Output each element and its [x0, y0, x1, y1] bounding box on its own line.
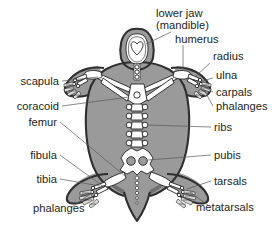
rib-node-r1	[142, 104, 148, 110]
rib-node-r4	[142, 131, 148, 137]
label-phalanges-hind: phalanges	[33, 202, 85, 214]
label-ribs: ribs	[214, 121, 232, 133]
rib-node-l3	[126, 122, 132, 128]
cervical-vertebra-1	[135, 65, 139, 69]
label-tarsals: tarsals	[214, 175, 247, 187]
label-radius: radius	[213, 50, 244, 62]
rib-node-l5	[126, 140, 132, 146]
label-coracoid: coracoid	[17, 100, 59, 112]
label-mandible: (mandible)	[156, 19, 209, 31]
rib-node-r2	[142, 113, 148, 119]
pelvic-girdle	[120, 148, 154, 175]
leader-radius	[196, 63, 210, 76]
turtle-skeleton-diagram: lower jaw (mandible) humerus radius ulna…	[0, 0, 273, 236]
label-fibula: fibula	[30, 149, 58, 161]
pubis-foramen-left	[127, 157, 136, 166]
cervical-vertebra-2	[135, 70, 139, 74]
vertebra-1	[131, 104, 143, 111]
label-lower-jaw: lower jaw	[156, 7, 204, 19]
pelvis-plate	[120, 148, 154, 175]
vertebra-3	[131, 122, 143, 129]
label-metatarsals: metatarsals	[196, 201, 254, 213]
rib-node-r3	[142, 122, 148, 128]
rib-node-r5	[142, 140, 148, 146]
vertebra-2	[131, 113, 143, 120]
label-scapula: scapula	[20, 75, 59, 87]
rib-node-l2	[126, 113, 132, 119]
girdle-center-node	[134, 92, 140, 98]
label-pubis: pubis	[214, 149, 241, 161]
label-humerus: humerus	[175, 33, 219, 45]
label-carpals: carpals	[216, 86, 252, 98]
label-phalanges-front: phalanges	[216, 100, 268, 112]
label-ulna: ulna	[216, 69, 238, 81]
rib-node-l4	[126, 131, 132, 137]
vertebra-5	[131, 140, 143, 147]
vertebra-4	[131, 131, 143, 138]
cervical-vertebra-3	[135, 75, 139, 79]
rib-node-l1	[126, 104, 132, 110]
label-femur: femur	[28, 116, 57, 128]
label-tibia: tibia	[36, 173, 57, 185]
pubis-foramen-right	[139, 157, 148, 166]
